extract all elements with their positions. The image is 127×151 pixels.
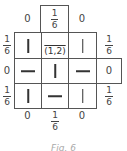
fraction-numerator: 1 (105, 86, 113, 97)
grid-cell-r3c2 (41, 83, 69, 109)
top-cell: 16 (40, 5, 69, 33)
label-top-right: 0 (68, 5, 96, 32)
grid-cell-r3c1 (14, 83, 42, 109)
fraction-denominator: 6 (4, 97, 10, 107)
vertical-edge-icon (54, 64, 56, 78)
right-cell-value: 0 (97, 59, 121, 83)
vertical-edge-icon (82, 39, 84, 53)
fraction-denominator: 6 (106, 97, 112, 107)
top-cell-value: 16 (41, 6, 68, 32)
horizontal-edge-icon (76, 70, 90, 72)
vertical-edge-icon (27, 39, 29, 53)
grid-cell-r2c1 (14, 58, 42, 84)
figure-caption: Fig. 6 (0, 143, 127, 151)
grid-cell-r1c2: (1,2) (41, 32, 69, 59)
grid-cell-r3c3 (68, 83, 97, 109)
horizontal-edge-icon (48, 95, 62, 97)
fraction-numerator: 1 (3, 35, 11, 46)
fraction-denominator: 6 (52, 122, 58, 132)
fraction-numerator: 1 (51, 9, 59, 20)
fraction-numerator: 1 (3, 86, 11, 97)
fraction-denominator: 6 (4, 46, 10, 56)
fraction-numerator: 1 (105, 35, 113, 46)
fraction-denominator: 6 (106, 46, 112, 56)
label-row1-right: 16 (96, 32, 122, 59)
horizontal-edge-icon (21, 70, 35, 72)
right-cell: 0 (96, 58, 122, 84)
label-row3-left: 16 (0, 83, 14, 109)
label-row1-left: 16 (0, 32, 14, 59)
fraction-denominator: 6 (52, 20, 58, 30)
grid-cell-r1c3 (68, 32, 97, 59)
label-row3-right: 16 (96, 83, 122, 109)
vertical-edge-icon (27, 89, 29, 103)
label-bottom-left: 0 (14, 109, 41, 123)
label-bottom-mid: 16 (41, 109, 69, 133)
grid-cell-r2c3 (68, 58, 97, 84)
label-top-left: 0 (14, 5, 41, 32)
grid-cell-r2c2 (41, 58, 69, 84)
vertical-edge-icon (82, 89, 84, 103)
center-label: (1,2) (42, 46, 68, 56)
label-row2-left: 0 (0, 58, 14, 84)
fraction-numerator: 1 (51, 111, 59, 122)
grid-cell-r1c1 (14, 32, 42, 59)
center-label-text: (1,2) (44, 46, 65, 56)
label-bottom-right: 0 (68, 109, 96, 123)
